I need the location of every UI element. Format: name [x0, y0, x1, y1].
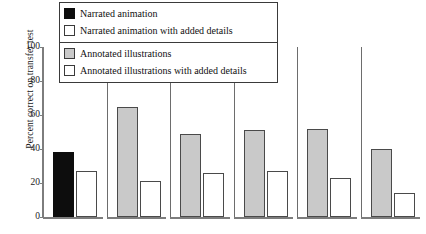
bar-secondary — [330, 178, 351, 217]
bar-primary — [244, 130, 265, 217]
y-axis-tick-label: 20 — [16, 178, 40, 188]
group-divider — [297, 47, 298, 217]
legend-item: Annotated illustrations — [64, 45, 273, 62]
bar-primary — [53, 152, 74, 217]
bar-primary — [307, 129, 328, 217]
bar-secondary — [267, 171, 288, 217]
baseline — [234, 217, 294, 219]
legend-swatch-icon — [64, 25, 75, 36]
legend-item-label: Narrated animation with added details — [80, 26, 233, 36]
y-axis-tick: 80 — [10, 81, 40, 82]
group-divider — [361, 47, 362, 217]
legend-swatch-icon — [64, 48, 75, 59]
chart-legend: Narrated animationNarrated animation wit… — [59, 2, 278, 83]
baseline — [43, 217, 103, 219]
bar-primary — [180, 134, 201, 217]
y-axis-tick: 20 — [10, 183, 40, 184]
bar-secondary — [140, 181, 161, 217]
bar-primary — [371, 149, 392, 217]
bar-secondary — [76, 171, 97, 217]
y-axis-tick: 0 — [10, 217, 40, 218]
baseline — [170, 217, 230, 219]
bar-chart: Percent correct on transfer test 1008060… — [0, 0, 426, 234]
y-axis-tick-label: 80 — [16, 76, 40, 86]
baseline — [107, 217, 167, 219]
legend-item-label: Annotated illustrations — [80, 49, 171, 59]
y-axis-tick-label: 60 — [16, 110, 40, 120]
legend-item-label: Narrated animation — [80, 9, 157, 19]
legend-item: Narrated animation with added details — [64, 22, 273, 39]
legend-item: Narrated animation — [64, 5, 273, 22]
bar-primary — [117, 107, 138, 218]
bar-secondary — [394, 193, 415, 217]
y-axis-tick-label: 40 — [16, 144, 40, 154]
baseline — [297, 217, 357, 219]
bar-group — [361, 47, 425, 217]
y-axis-tick: 100 — [10, 47, 40, 48]
y-axis-tick: 60 — [10, 115, 40, 116]
baseline — [361, 217, 421, 219]
legend-block: Narrated animationNarrated animation wit… — [60, 3, 277, 42]
legend-item: Annotated illustrations with added detai… — [64, 62, 273, 79]
y-axis-tick: 40 — [10, 149, 40, 150]
legend-item-label: Annotated illustrations with added detai… — [80, 66, 247, 76]
legend-swatch-icon — [64, 65, 75, 76]
legend-swatch-icon — [64, 8, 75, 19]
bar-secondary — [203, 173, 224, 217]
y-axis-tick-label: 0 — [16, 212, 40, 222]
legend-block: Annotated illustrationsAnnotated illustr… — [60, 42, 277, 82]
bar-group — [297, 47, 361, 217]
y-axis-tick-label: 100 — [16, 42, 40, 52]
